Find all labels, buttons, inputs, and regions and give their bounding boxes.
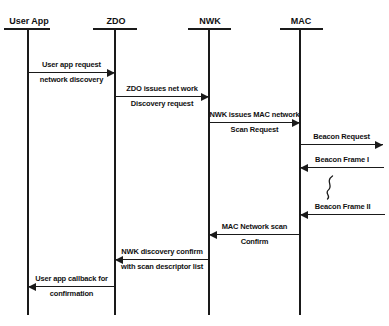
message-arrowhead-left-icon [300, 211, 308, 219]
message-label-above: NWK issues MAC network [209, 110, 299, 120]
message-label-below: Discovery request [131, 99, 193, 109]
message-label-above: Beacon Frame I [315, 155, 369, 165]
message-arrowhead-left-icon [209, 231, 217, 239]
message-arrowhead-right-icon [201, 93, 209, 101]
message-arrowhead-right-icon [375, 141, 383, 149]
message-arrowhead-left-icon [300, 164, 308, 172]
lifeline-nwk [208, 29, 209, 315]
message-label-below: Scan Request [231, 125, 279, 135]
message-label-below: confirmation [50, 289, 94, 299]
lifeline-head-bar-mac [280, 28, 323, 30]
message-line [28, 72, 115, 73]
message-label-above: ZDO issues net work [126, 84, 197, 94]
message-line [115, 259, 209, 260]
message-line [209, 122, 300, 123]
lifeline-mac [299, 29, 300, 315]
message-arrowhead-right-icon [107, 69, 115, 77]
message-line [300, 167, 384, 168]
message-label-above: NWK discovery confirm [121, 247, 202, 257]
lifeline-label-mac: MAC [291, 16, 312, 27]
lifeline-label-nwk: NWK [199, 16, 221, 27]
message-label-below: with scan descriptor list [121, 262, 203, 272]
message-label-below: Confirm [241, 237, 269, 247]
message-label-above: Beacon Request [313, 132, 370, 142]
message-label-below: network discovery [40, 75, 103, 85]
message-label-above: Beacon Frame II [315, 202, 371, 212]
lifeline-label-user-app: User App [9, 16, 49, 27]
message-line [28, 286, 115, 287]
lifeline-label-zdo: ZDO [107, 16, 126, 27]
message-label-above: User app request [42, 60, 101, 70]
break-squiggle-icon [322, 175, 336, 200]
message-label-above: MAC Network scan [222, 222, 288, 232]
message-label-above: User app callback for [35, 274, 108, 284]
sequence-diagram: User AppZDONWKMACUser app requestnetwork… [0, 0, 389, 326]
message-line [209, 234, 300, 235]
message-line [300, 214, 385, 215]
message-line [300, 144, 383, 145]
message-line [115, 96, 209, 97]
